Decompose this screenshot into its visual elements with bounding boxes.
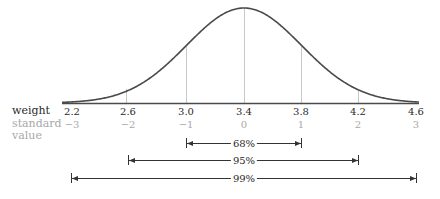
- interval-95-label: 95%: [231, 156, 257, 166]
- normal-curve: [62, 8, 419, 102]
- normal-curve-plot: [0, 0, 440, 199]
- gridlines: [127, 8, 359, 103]
- weight-tick: 3.4: [236, 107, 252, 117]
- standard-value-tick: −2: [121, 120, 136, 130]
- interval-99-label: 99%: [231, 174, 257, 184]
- standard-value-tick: 2: [355, 120, 361, 130]
- weight-tick: 2.2: [64, 107, 80, 117]
- standard-value-label-line2: value: [12, 131, 42, 141]
- standard-value-label-line1: standard: [12, 119, 62, 129]
- standard-value-tick: 1: [298, 120, 304, 130]
- weight-tick: 3.0: [178, 107, 194, 117]
- weight-tick: 2.6: [120, 107, 136, 117]
- weight-tick: 4.2: [350, 107, 366, 117]
- weight-axis-label: weight: [12, 106, 50, 116]
- standard-value-tick: −3: [65, 120, 80, 130]
- weight-tick: 3.8: [293, 107, 309, 117]
- weight-tick: 4.6: [408, 107, 424, 117]
- interval-68-label: 68%: [231, 139, 257, 149]
- standard-value-tick: 3: [413, 120, 419, 130]
- standard-value-tick: −1: [179, 120, 194, 130]
- standard-value-tick: 0: [241, 120, 247, 130]
